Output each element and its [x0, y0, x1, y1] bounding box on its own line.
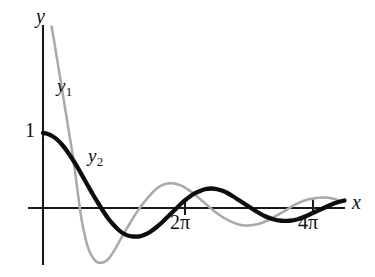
figure-container: y x y1 y2 1 2π 4π: [0, 0, 375, 277]
curve-y1-label: y1: [57, 76, 72, 99]
plot-canvas: [0, 0, 375, 277]
x-tick-label-2pi: 2π: [170, 212, 190, 232]
curve-y2-label-subscript: 2: [96, 154, 103, 169]
x-tick-label-4pi: 4π: [298, 212, 318, 232]
y-axis-label: y: [36, 6, 45, 26]
x-axis-label: x: [352, 192, 361, 212]
curve-y1-label-subscript: 1: [65, 84, 72, 99]
y-tick-label-one: 1: [25, 120, 35, 140]
curve-y2-label: y2: [88, 146, 103, 169]
